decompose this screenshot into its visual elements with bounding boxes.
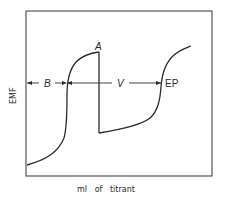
label-ep: EP [165,78,179,89]
y-axis-label: EMF [9,87,18,104]
plot-frame [26,11,212,176]
label-v: V [117,78,125,89]
curve-second-rise [99,46,191,133]
x-axis-label: ml of titrant [77,185,135,194]
arrow-left-icon [27,81,32,85]
arrow-right-icon [156,81,161,85]
label-b: B [44,78,51,89]
arrow-right-icon [62,81,67,85]
titration-diagram: B V A EP EMF ml of titrant [0,0,226,202]
label-a: A [94,41,102,52]
curve-first-rise [27,52,99,165]
interval-v-marker [67,81,161,85]
